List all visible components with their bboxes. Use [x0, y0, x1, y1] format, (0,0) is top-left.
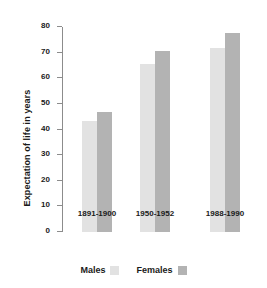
y-tick: 60 — [57, 77, 62, 78]
y-tick-label: 60 — [41, 72, 50, 81]
y-tick: 10 — [57, 205, 62, 206]
y-tick-label: 30 — [41, 149, 50, 158]
y-tick-label: 10 — [41, 200, 50, 209]
legend-label: Females — [136, 265, 172, 275]
y-tick-label: 0 — [46, 226, 50, 235]
y-tick: 20 — [57, 180, 62, 181]
y-tick: 0 — [57, 231, 62, 232]
bar-females-1950-1952 — [155, 51, 170, 232]
y-tick: 40 — [57, 129, 62, 130]
bar-males-1988-1990 — [210, 48, 225, 233]
plot-area: 01020304050607080 — [62, 27, 252, 232]
legend-label: Males — [80, 265, 105, 275]
legend-item-females: Females — [136, 265, 186, 275]
bar-chart: Expectation of life in years 01020304050… — [0, 0, 267, 288]
bar-females-1988-1990 — [225, 33, 240, 232]
y-tick: 80 — [57, 26, 62, 27]
y-tick: 30 — [57, 154, 62, 155]
y-axis-title: Expectation of life in years — [22, 58, 32, 238]
y-tick: 70 — [57, 52, 62, 53]
y-tick-label: 20 — [41, 175, 50, 184]
x-axis-label-1891-1900: 1891-1900 — [78, 209, 116, 218]
y-tick: 50 — [57, 103, 62, 104]
x-axis-label-1950-1952: 1950-1952 — [136, 209, 174, 218]
legend-item-males: Males — [80, 265, 119, 275]
females-swatch — [178, 266, 187, 275]
legend: MalesFemales — [0, 265, 267, 275]
y-tick-label: 40 — [41, 124, 50, 133]
x-axis-label-1988-1990: 1988-1990 — [206, 209, 244, 218]
y-axis-line — [62, 27, 63, 232]
males-swatch — [110, 266, 119, 275]
bar-males-1950-1952 — [140, 64, 155, 232]
y-tick-label: 80 — [41, 21, 50, 30]
y-tick-label: 70 — [41, 47, 50, 56]
y-tick-label: 50 — [41, 98, 50, 107]
